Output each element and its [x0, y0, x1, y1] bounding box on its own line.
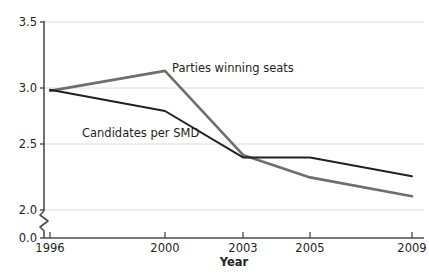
y-tick-label-3: 2.0: [19, 203, 37, 217]
x-tick-label-0: 1996: [35, 241, 64, 255]
line-chart: 3.5 3.0 2.5 2.0 0.0 1996 2000 2003 2005 …: [0, 0, 429, 276]
chart-background: [0, 0, 429, 276]
x-axis-title: Year: [219, 255, 249, 269]
y-tick-label-1: 3.0: [19, 81, 37, 95]
x-tick-label-3: 2005: [295, 241, 324, 255]
x-tick-label-1: 2000: [150, 241, 179, 255]
series-annotation-parties-winning-seats: Parties winning seats: [172, 61, 294, 75]
y-tick-label-4: 0.0: [19, 231, 37, 245]
series-annotation-candidates-per-smd: Candidates per SMD: [82, 126, 199, 140]
y-tick-label-0: 3.5: [19, 15, 37, 29]
y-tick-label-2: 2.5: [19, 137, 37, 151]
x-tick-label-4: 2009: [397, 241, 426, 255]
chart-canvas: 3.5 3.0 2.5 2.0 0.0 1996 2000 2003 2005 …: [0, 0, 429, 276]
x-tick-label-2: 2003: [228, 241, 257, 255]
